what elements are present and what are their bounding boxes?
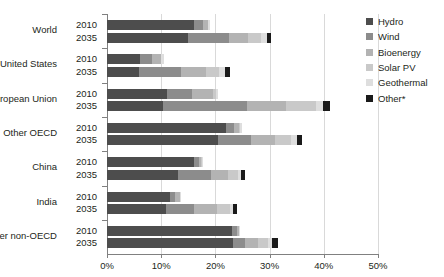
gridline (161, 14, 162, 254)
bar-segment-wind (139, 67, 181, 77)
legend: HydroWindBioenergySolar PVGeothermalOthe… (366, 14, 444, 106)
bar-segment-geothermal (202, 157, 203, 167)
bar-segment-hydro (107, 89, 167, 99)
x-tick (324, 254, 325, 258)
bar-segment-hydro (107, 101, 163, 111)
bar-segment-geothermal (161, 54, 164, 64)
bar-segment-wind (233, 238, 245, 248)
bar-segment-other- (241, 170, 245, 180)
bar-segment-hydro (107, 33, 188, 43)
bar-european-union-2035 (107, 101, 330, 111)
bar-india-2010 (107, 192, 181, 202)
bar-segment-bioenergy (247, 101, 285, 111)
legend-item-geothermal[interactable]: Geothermal (366, 75, 444, 90)
legend-item-bioenergy[interactable]: Bioenergy (366, 45, 444, 60)
legend-swatch-icon (366, 64, 373, 71)
x-tick (161, 254, 162, 258)
legend-swatch-icon (366, 49, 373, 56)
bar-segment-wind (140, 54, 152, 64)
legend-item-solar-pv[interactable]: Solar PV (366, 60, 444, 75)
bar-segment-geothermal (239, 226, 240, 236)
bar-segment-wind (226, 123, 234, 133)
year-label: 2035 (76, 66, 97, 77)
gridline (215, 14, 216, 254)
x-tick-label: 30% (260, 260, 279, 271)
category-label-european-union: European Union (0, 93, 57, 104)
bar-european-union-2010 (107, 89, 218, 99)
x-tick-label: 20% (206, 260, 225, 271)
x-axis-line (107, 254, 379, 255)
year-label: 2035 (76, 134, 97, 145)
bar-china-2010 (107, 157, 203, 167)
y-tick (102, 48, 107, 49)
bar-united-states-2010 (107, 54, 164, 64)
bar-other-oecd-2010 (107, 123, 242, 133)
legend-label: Solar PV (378, 62, 416, 73)
x-tick-label: 0% (100, 260, 114, 271)
bar-segment-bioenergy (152, 54, 161, 64)
bar-segment-other- (272, 238, 277, 248)
bar-segment-bioenergy (194, 204, 217, 214)
bar-segment-hydro (107, 67, 139, 77)
bar-segment-bioenergy (181, 67, 206, 77)
year-label: 2035 (76, 169, 97, 180)
bar-other-non-oecd-2010 (107, 226, 240, 236)
bar-segment-bioenergy (251, 135, 275, 145)
bar-united-states-2035 (107, 67, 230, 77)
gridline (324, 14, 325, 254)
bar-segment-solar-pv (258, 238, 268, 248)
year-label: 2010 (76, 156, 97, 167)
legend-item-hydro[interactable]: Hydro (366, 14, 444, 29)
bar-segment-solar-pv (228, 170, 238, 180)
bar-segment-hydro (107, 238, 233, 248)
bar-segment-geothermal (240, 123, 243, 133)
year-label: 2010 (76, 191, 97, 202)
y-tick (102, 151, 107, 152)
x-tick-label: 10% (152, 260, 171, 271)
legend-item-other-[interactable]: Other* (366, 90, 444, 105)
year-label: 2010 (76, 225, 97, 236)
bar-segment-solar-pv (248, 33, 261, 43)
legend-swatch-icon (366, 79, 373, 86)
year-label: 2035 (76, 203, 97, 214)
bar-segment-bioenergy (229, 33, 248, 43)
bar-segment-geothermal (180, 192, 181, 202)
bar-segment-hydro (107, 204, 166, 214)
y-axis-line (107, 14, 108, 254)
bar-segment-wind (178, 170, 211, 180)
legend-swatch-icon (366, 95, 373, 102)
bar-segment-wind (167, 89, 192, 99)
y-tick (102, 220, 107, 221)
bar-segment-hydro (107, 123, 226, 133)
y-tick (102, 14, 107, 15)
legend-swatch-icon (366, 33, 373, 40)
category-label-other-non-oecd: Other non-OECD (0, 230, 57, 241)
year-label: 2010 (76, 88, 97, 99)
legend-label: Geothermal (378, 77, 428, 88)
bar-segment-wind (163, 101, 247, 111)
category-label-united-states: United States (0, 58, 57, 69)
x-tick (378, 254, 379, 258)
bar-world-2035 (107, 33, 271, 43)
bar-segment-bioenergy (211, 170, 228, 180)
bar-segment-hydro (107, 192, 170, 202)
x-tick (107, 254, 108, 258)
bar-segment-other- (233, 204, 237, 214)
bar-india-2035 (107, 204, 237, 214)
bar-segment-other- (323, 101, 330, 111)
y-tick (102, 83, 107, 84)
year-label: 2035 (76, 32, 97, 43)
year-label: 2010 (76, 122, 97, 133)
gridline (270, 14, 271, 254)
bar-segment-other- (267, 33, 271, 43)
bar-world-2010 (107, 20, 210, 30)
category-label-india: India (36, 196, 57, 207)
year-label: 2010 (76, 19, 97, 30)
x-tick-label: 40% (314, 260, 333, 271)
legend-item-wind[interactable]: Wind (366, 29, 444, 44)
plot-area (107, 14, 378, 254)
bar-segment-geothermal (316, 101, 323, 111)
bar-segment-solar-pv (217, 204, 230, 214)
legend-label: Bioenergy (378, 47, 421, 58)
bar-china-2035 (107, 170, 245, 180)
